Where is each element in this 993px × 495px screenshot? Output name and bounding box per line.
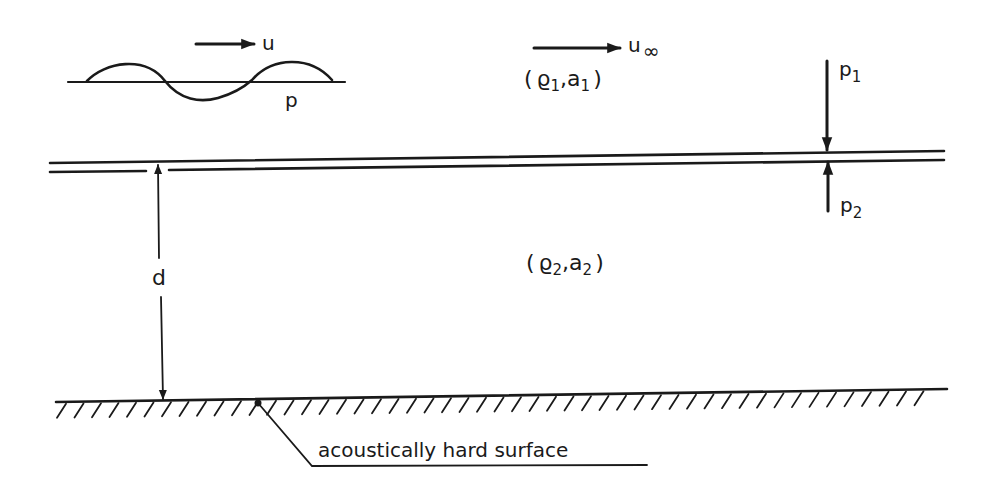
- thin-plate: [50, 151, 944, 172]
- hatch-mark: [792, 393, 801, 407]
- hard-surface: [56, 389, 947, 418]
- hatch-mark: [407, 399, 416, 413]
- hatch-mark: [57, 404, 66, 418]
- surface-label: acoustically hard surface: [318, 438, 568, 462]
- hatch-mark: [442, 398, 451, 412]
- hatch-mark: [337, 400, 346, 414]
- velocity-label: u: [262, 31, 275, 55]
- hatch-mark: [810, 393, 819, 407]
- hatch-mark: [372, 399, 381, 413]
- hatch-mark: [845, 392, 854, 406]
- hatch-mark: [460, 398, 469, 412]
- hatch-mark: [477, 398, 486, 412]
- hatch-mark: [775, 393, 784, 407]
- gap-label: d: [152, 265, 166, 290]
- hatch-mark: [915, 391, 924, 405]
- acoustic-plate-diagram: u p u∞ (ϱ1,a1) p1 p2 (ϱ2,a2) d: [0, 0, 993, 495]
- p2-label: p2: [840, 193, 862, 222]
- hatch-mark: [110, 403, 119, 417]
- hatch-mark: [617, 396, 626, 410]
- pressure-label: p: [285, 88, 298, 112]
- hatch-mark: [600, 396, 609, 410]
- hatch-mark: [705, 394, 714, 408]
- gap-arrow-down-icon: [161, 297, 163, 399]
- hatch-mark: [880, 392, 889, 406]
- p1-label: p1: [839, 57, 861, 86]
- hatch-mark: [757, 394, 766, 408]
- free-stream-label: u∞: [628, 33, 659, 63]
- hatch-mark: [670, 395, 679, 409]
- surface-callout: acoustically hard surface: [255, 400, 648, 467]
- gap-dimension: d: [152, 165, 166, 399]
- hatch-mark: [180, 402, 189, 416]
- hatch-mark: [425, 398, 434, 412]
- hatch-mark: [215, 402, 224, 416]
- hatch-mark: [75, 404, 84, 418]
- hatch-mark: [512, 397, 521, 411]
- hatch-mark: [267, 401, 276, 415]
- gap-arrow-up-icon: [158, 165, 159, 258]
- hatch-mark: [582, 396, 591, 410]
- hatch-mark: [652, 395, 661, 409]
- hatch-mark: [827, 393, 836, 407]
- hatch-mark: [145, 403, 154, 417]
- hatch-mark: [565, 396, 574, 410]
- hatch-mark: [687, 395, 696, 409]
- pressure-arrows: p1 p2: [827, 57, 862, 222]
- hatch-mark: [302, 400, 311, 414]
- hatch-mark: [162, 402, 171, 416]
- hatch-mark: [740, 394, 749, 408]
- hatch-mark: [232, 401, 241, 415]
- hatch-mark: [127, 403, 136, 417]
- hatch-mark: [285, 401, 294, 415]
- hatch-mark: [390, 399, 399, 413]
- hatch-mark: [862, 392, 871, 406]
- plate-bottom-surface-left: [50, 171, 146, 172]
- hatch-mark: [197, 402, 206, 416]
- hatch-mark: [355, 400, 364, 414]
- upper-medium-properties: (ϱ1,a1): [524, 66, 602, 95]
- hatch-mark: [722, 394, 731, 408]
- hatch-mark: [635, 395, 644, 409]
- upper-medium: u∞ (ϱ1,a1): [524, 33, 659, 95]
- wave-inset: u p: [68, 31, 345, 112]
- hatch-mark: [530, 397, 539, 411]
- hatch-mark: [897, 392, 906, 406]
- hatch-mark: [320, 400, 329, 414]
- hatch-mark: [92, 403, 101, 417]
- hatch-mark: [495, 397, 504, 411]
- hatch-mark: [547, 397, 556, 411]
- lower-medium-properties: (ϱ2,a2): [526, 250, 604, 279]
